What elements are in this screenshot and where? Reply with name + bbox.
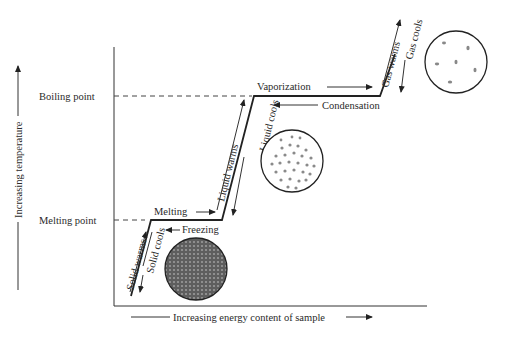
solid-particles-illustration xyxy=(165,238,227,300)
condensation-label: Condensation xyxy=(322,100,380,111)
vaporization-label: Vaporization xyxy=(257,81,311,92)
boiling-point-label: Boiling point xyxy=(39,91,95,102)
gas-cools-arrow xyxy=(401,60,405,92)
gas-warms-label: Gas warms xyxy=(379,40,402,88)
x-axis-indicator: Increasing energy content of sample xyxy=(131,312,372,323)
y-axis-indicator: Increasing temperature xyxy=(13,66,24,290)
liquid-particles-illustration xyxy=(261,130,323,192)
gas-particles-illustration xyxy=(425,31,487,93)
x-axis-label: Increasing energy content of sample xyxy=(173,312,325,323)
melting-label: Melting xyxy=(154,206,188,217)
solid-cools-arrow xyxy=(140,275,143,292)
solid-warms-label: Solid warms xyxy=(124,238,148,292)
y-axis-label: Increasing temperature xyxy=(13,121,24,218)
melting-point-label: Melting point xyxy=(39,215,97,226)
gas-cools-label: Gas cools xyxy=(403,18,424,61)
liquid-warms-label: Liquid warms xyxy=(215,143,240,203)
heating-curve-diagram: Increasing temperature Boiling point Mel… xyxy=(0,0,508,339)
freezing-label: Freezing xyxy=(182,224,219,235)
